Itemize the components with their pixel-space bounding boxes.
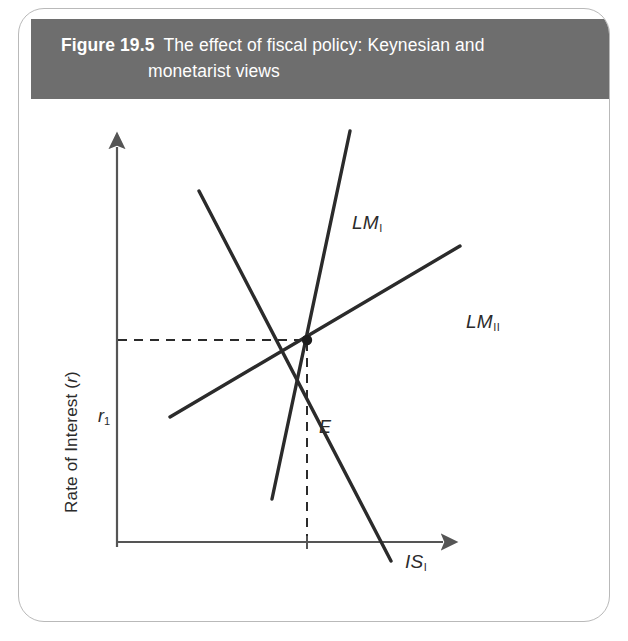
figure-number: Figure 19.5 xyxy=(61,35,155,55)
lm2-curve xyxy=(170,246,460,417)
is1-curve-label: ISI xyxy=(405,551,427,573)
lm1-subscript: I xyxy=(379,222,383,234)
y-axis-title: Rate of Interest (r) xyxy=(62,342,82,542)
y-axis-title-variable: r xyxy=(62,377,81,383)
figure-card: Figure 19.5The effect of fiscal policy: … xyxy=(18,8,610,622)
figure-header: Figure 19.5The effect of fiscal policy: … xyxy=(31,19,610,99)
is1-curve xyxy=(199,191,391,561)
lm1-curve xyxy=(272,131,350,499)
economics-line-chart xyxy=(19,99,610,622)
equilibrium-point-marker xyxy=(302,335,312,345)
figure-title-line-2: monetarist views xyxy=(61,58,585,84)
y-axis-tick-label-r1: r1 xyxy=(98,406,110,427)
is1-subscript: I xyxy=(424,561,428,573)
r1-subscript: 1 xyxy=(104,415,110,427)
lm1-curve-label: LMI xyxy=(352,212,382,234)
lm2-curve-label: LMII xyxy=(466,311,500,333)
equilibrium-point-label: E xyxy=(319,417,331,438)
plot-area: LMI LMII ISI E r1 Y1 O Income (Y) Rate o… xyxy=(19,99,610,622)
figure-title-line-1: Figure 19.5The effect of fiscal policy: … xyxy=(61,32,585,58)
figure-title-text-1: The effect of fiscal policy: Keynesian a… xyxy=(164,35,485,55)
lm2-subscript: II xyxy=(493,321,500,333)
